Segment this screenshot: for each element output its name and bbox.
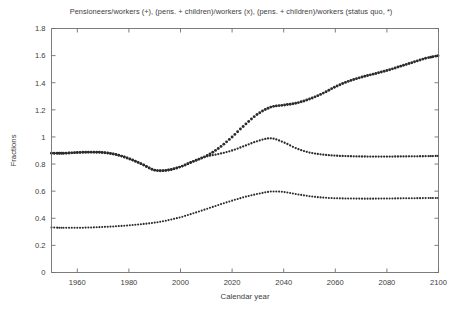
y-tick-label: 1.4 <box>35 79 46 88</box>
axis-tick-labels-group: 1960198020002020204020602080210000.20.40… <box>35 24 447 286</box>
data-series-group <box>50 54 439 229</box>
y-tick-label: 0.6 <box>35 187 46 196</box>
axis-ticks-group <box>52 29 439 273</box>
y-tick-label: 1.2 <box>35 106 46 115</box>
plot-frame <box>52 29 439 273</box>
x-tick-label: 2100 <box>430 278 447 287</box>
x-tick-label: 2040 <box>275 278 292 287</box>
x-tick-label: 2080 <box>378 278 395 287</box>
y-tick-label: 1 <box>41 133 45 142</box>
series-1-markers <box>50 54 439 172</box>
series-3-markers <box>50 190 439 228</box>
x-tick-label: 2060 <box>327 278 344 287</box>
x-tick-label: 1960 <box>69 278 86 287</box>
y-tick-label: 0.8 <box>35 160 46 169</box>
y-tick-label: 0.2 <box>35 241 46 250</box>
x-tick-label: 2020 <box>224 278 241 287</box>
y-axis-label: Fractions <box>9 134 18 166</box>
x-tick-label: 2000 <box>172 278 189 287</box>
chart-figure: Pensioneers/workers (+), (pens. + childr… <box>0 0 462 311</box>
x-tick-label: 1980 <box>120 278 137 287</box>
series-2-markers <box>50 137 439 172</box>
y-tick-label: 0 <box>41 268 45 277</box>
y-tick-label: 1.8 <box>35 24 46 33</box>
y-tick-label: 1.6 <box>35 51 46 60</box>
y-tick-label: 0.4 <box>35 214 46 223</box>
plot-canvas: 1960198020002020204020602080210000.20.40… <box>0 0 462 311</box>
x-axis-label: Calendar year <box>221 292 270 301</box>
